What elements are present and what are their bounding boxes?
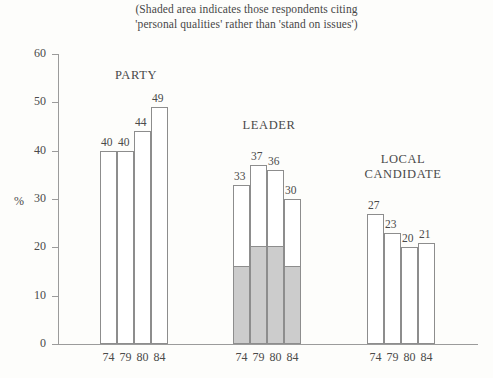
x-axis-label: 84 xyxy=(149,350,171,365)
y-tick-label: 40 xyxy=(16,143,46,158)
bar-shaded-portion xyxy=(251,246,266,343)
group-title-line: CANDIDATE xyxy=(362,167,444,182)
bar-value-label: 33 xyxy=(234,170,246,182)
bar-shaded-portion xyxy=(234,266,249,343)
bar-value-label: 36 xyxy=(268,155,280,167)
bar xyxy=(151,107,168,344)
bar xyxy=(367,214,384,345)
bar-value-label: 23 xyxy=(385,218,397,230)
bar xyxy=(418,243,435,345)
y-tick-mark xyxy=(52,344,59,345)
bar-value-label: 37 xyxy=(251,150,263,162)
subtitle-line-2: 'personal qualities' rather than 'stand … xyxy=(0,17,493,32)
y-tick-label: 0 xyxy=(16,336,46,351)
bar-shaded-portion xyxy=(268,246,283,343)
bar xyxy=(384,233,401,344)
y-tick-label: 50 xyxy=(16,94,46,109)
group-title-party: PARTY xyxy=(100,68,172,83)
bar-shaded-portion xyxy=(285,266,300,343)
group-title-line: PARTY xyxy=(100,68,172,83)
x-axis-line xyxy=(58,344,478,345)
bar-value-label: 40 xyxy=(101,136,113,148)
y-tick-mark xyxy=(52,247,59,248)
bar xyxy=(401,247,418,344)
bar-value-label: 21 xyxy=(419,228,431,240)
bar-value-label: 40 xyxy=(118,136,130,148)
bar-value-label: 30 xyxy=(285,184,297,196)
x-axis-label: 84 xyxy=(416,350,438,365)
y-tick-mark xyxy=(52,199,59,200)
bar xyxy=(233,185,250,345)
bar-chart: (Shaded area indicates those respondents… xyxy=(0,0,493,378)
bar-value-label: 20 xyxy=(402,232,414,244)
subtitle-line-1: (Shaded area indicates those respondents… xyxy=(0,2,493,17)
y-tick-mark xyxy=(52,296,59,297)
y-tick-mark xyxy=(52,102,59,103)
bar xyxy=(100,151,117,344)
y-tick-mark xyxy=(52,151,59,152)
group-title-line: LEADER xyxy=(230,118,308,133)
bar xyxy=(250,165,267,344)
group-title-local-candidate: LOCALCANDIDATE xyxy=(362,152,444,182)
group-title-leader: LEADER xyxy=(230,118,308,133)
y-tick-label: 60 xyxy=(16,46,46,61)
chart-subtitle: (Shaded area indicates those respondents… xyxy=(0,2,493,32)
bar-value-label: 44 xyxy=(135,116,147,128)
bar-value-label: 27 xyxy=(368,199,380,211)
bar-value-label: 49 xyxy=(152,92,164,104)
bar xyxy=(117,151,134,344)
bar xyxy=(134,131,151,344)
x-axis-label: 84 xyxy=(282,350,304,365)
bar xyxy=(267,170,284,344)
y-axis-title: % xyxy=(14,194,24,209)
y-tick-label: 20 xyxy=(16,239,46,254)
group-title-line: LOCAL xyxy=(362,152,444,167)
bar xyxy=(284,199,301,344)
y-tick-mark xyxy=(52,54,59,55)
y-tick-label: 10 xyxy=(16,288,46,303)
